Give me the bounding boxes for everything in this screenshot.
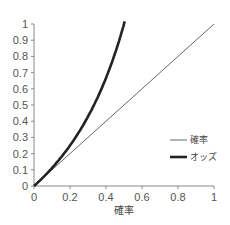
- y-tick-label: 0.3: [13, 131, 28, 143]
- legend: 確率 オッズ: [170, 134, 217, 162]
- x-tick-label: 0.4: [98, 191, 113, 203]
- y-tick-label: 0.2: [13, 148, 28, 160]
- x-tick-label: 0: [31, 191, 37, 203]
- x-tick-label: 0.6: [134, 191, 149, 203]
- y-tick-label: 0.9: [13, 34, 28, 46]
- y-tick-label: 0.4: [13, 115, 28, 127]
- y-tick-label: 0.1: [13, 164, 28, 176]
- x-tick-label: 1: [211, 191, 217, 203]
- x-axis: 00.20.40.60.81: [31, 186, 217, 203]
- series-odds-curve: [34, 21, 125, 186]
- x-tick-label: 0.2: [62, 191, 77, 203]
- y-tick-label: 0.7: [13, 67, 28, 79]
- legend-label-odds: オッズ: [190, 151, 217, 162]
- y-axis: 00.10.20.30.40.50.60.70.80.91: [13, 18, 34, 192]
- y-tick-label: 0.5: [13, 99, 28, 111]
- plot-area: [34, 21, 214, 186]
- y-tick-label: 0.6: [13, 83, 28, 95]
- probability-odds-chart: 00.10.20.30.40.50.60.70.80.91 00.20.40.6…: [0, 0, 230, 225]
- y-tick-label: 1: [22, 18, 28, 30]
- y-tick-label: 0: [22, 180, 28, 192]
- legend-label-probability: 確率: [190, 134, 208, 145]
- y-tick-label: 0.8: [13, 50, 28, 62]
- series-probability-line: [34, 24, 214, 186]
- x-axis-title: 確率: [114, 204, 134, 216]
- x-tick-label: 0.8: [170, 191, 185, 203]
